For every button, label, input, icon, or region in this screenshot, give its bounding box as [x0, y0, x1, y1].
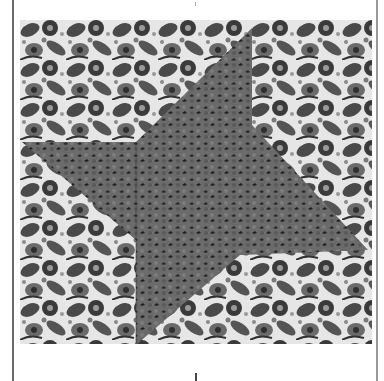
- quilt-block-graphic: [20, 20, 372, 344]
- bottom-mark: [195, 373, 197, 381]
- top-mark: [195, 2, 196, 6]
- quilt-block: [20, 20, 372, 344]
